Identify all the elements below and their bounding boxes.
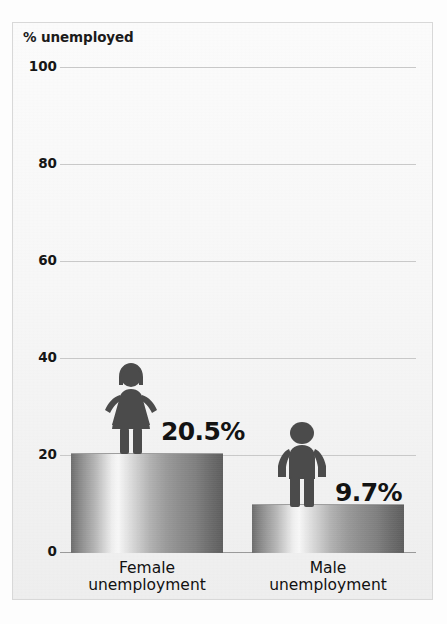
bar-female-unemployment[interactable] [71, 453, 223, 553]
gridline-80 [60, 164, 416, 165]
y-tick-label-0: 0 [15, 545, 57, 559]
y-tick-label-100: 100 [15, 60, 57, 74]
y-tick-label-80: 80 [15, 157, 57, 171]
value-label-female: 20.5% [161, 419, 245, 444]
category-label-male-line2: unemployment [240, 577, 416, 594]
category-label-female-line1: Female [59, 560, 235, 577]
gridline-60 [60, 261, 416, 262]
scan-page: % unemployed 100 80 60 40 20 [0, 0, 447, 624]
y-tick-80-wrap: 80 [13, 157, 57, 171]
category-label-male: Male unemployment [240, 560, 416, 595]
y-tick-20-wrap: 20 [13, 448, 57, 462]
plot-area: 100 80 60 40 20 0 [13, 23, 433, 600]
y-tick-100-wrap: 100 [13, 60, 57, 74]
bar-male-unemployment[interactable] [252, 504, 404, 553]
male-pictogram [275, 421, 329, 507]
gridline-40 [60, 358, 416, 359]
y-tick-label-40: 40 [15, 351, 57, 365]
female-pictogram [103, 363, 159, 455]
category-label-female-line2: unemployment [59, 577, 235, 594]
y-tick-label-60: 60 [15, 254, 57, 268]
y-tick-40-wrap: 40 [13, 351, 57, 365]
y-tick-0-wrap: 0 [13, 545, 57, 559]
gridline-100 [60, 67, 416, 68]
y-tick-label-20: 20 [15, 448, 57, 462]
value-label-male: 9.7% [335, 480, 402, 505]
chart-figure: % unemployed 100 80 60 40 20 [12, 22, 433, 600]
category-label-male-line1: Male [240, 560, 416, 577]
category-label-female: Female unemployment [59, 560, 235, 595]
y-tick-60-wrap: 60 [13, 254, 57, 268]
